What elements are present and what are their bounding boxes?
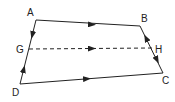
segment-gh-dashed (29, 48, 152, 49)
label-b: B (141, 13, 148, 24)
label-h: H (155, 44, 162, 55)
label-d: D (12, 87, 19, 98)
side-ab (36, 20, 140, 26)
side-dc (20, 73, 163, 84)
label-c: C (162, 75, 169, 86)
quadrilateral-diagram: A B C D G H (0, 0, 175, 102)
label-a: A (27, 7, 34, 18)
label-g: G (16, 44, 24, 55)
